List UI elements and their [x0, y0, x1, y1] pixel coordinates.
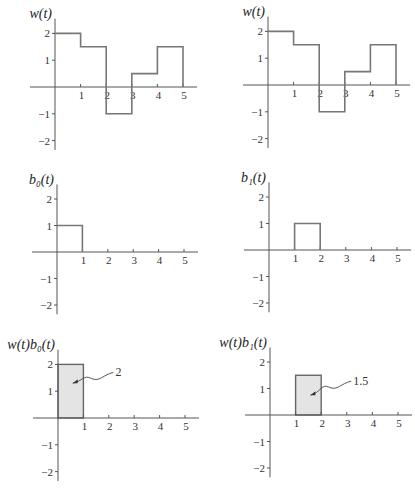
panel-b0: 12345−2−112b₀(t): [29, 172, 198, 315]
x-tick-label: 4: [369, 87, 375, 99]
x-tick-label: 4: [158, 420, 164, 432]
x-tick-label: 5: [394, 87, 400, 99]
signal-line: [55, 33, 183, 113]
x-tick-label: 5: [181, 89, 187, 101]
x-tick-label: 5: [183, 420, 189, 432]
x-tick-label: 2: [318, 252, 324, 264]
y-tick-label: 2: [48, 358, 54, 370]
x-tick-label: 2: [104, 89, 110, 101]
x-tick-label: 4: [371, 417, 377, 429]
y-tick-label: −2: [253, 462, 265, 474]
x-tick-label: 3: [130, 89, 136, 101]
figure: 12345−2−112w(t)12345−2−112w(t)12345−2−11…: [0, 0, 415, 488]
shaded-area: [296, 375, 322, 415]
signal-line: [57, 226, 82, 253]
panel-b1: 12345−2−112b₁(t): [241, 170, 411, 313]
x-tick-label: 5: [396, 417, 402, 429]
panel-title: b₁(t): [241, 170, 266, 186]
panel-wb1: 12345−2−112w(t)b₁(t)1.5: [219, 335, 412, 478]
x-tick-label: 2: [106, 254, 112, 266]
x-tick-label: 1: [79, 89, 85, 101]
y-tick-label: 1: [47, 220, 53, 232]
y-tick-label: −1: [38, 108, 50, 120]
y-tick-label: −1: [252, 271, 264, 283]
panel-title: w(t): [242, 4, 265, 20]
y-tick-label: −2: [40, 299, 52, 311]
x-tick-label: 3: [343, 87, 349, 99]
y-tick-label: 1: [260, 383, 266, 395]
y-tick-label: −1: [251, 106, 263, 118]
panel-w-copy: 12345−2−112w(t): [242, 4, 410, 148]
x-tick-label: 4: [157, 254, 163, 266]
y-tick-label: −2: [38, 135, 50, 147]
y-tick-label: −2: [251, 133, 263, 145]
x-tick-label: 4: [156, 89, 162, 101]
y-tick-label: 1: [45, 54, 51, 66]
signal-line: [295, 224, 321, 251]
x-tick-label: 3: [132, 420, 138, 432]
y-tick-label: 2: [259, 191, 265, 203]
x-tick-label: 5: [395, 252, 401, 264]
y-tick-label: 1: [258, 52, 264, 64]
y-tick-label: 1: [48, 385, 54, 397]
y-tick-label: 2: [45, 27, 51, 39]
x-tick-label: 1: [292, 87, 298, 99]
x-tick-label: 1: [81, 254, 87, 266]
x-tick-label: 2: [319, 417, 325, 429]
panel-title: w(t)b₁(t): [219, 335, 267, 351]
signal-line: [268, 31, 396, 111]
y-tick-label: −2: [252, 297, 264, 309]
panel-title: b₀(t): [29, 172, 54, 188]
panel-w: 12345−2−112w(t): [29, 6, 197, 150]
y-tick-label: 1: [259, 218, 265, 230]
x-tick-label: 4: [370, 252, 376, 264]
area-annotation: 2: [115, 365, 121, 379]
panel-title: w(t)b₀(t): [7, 337, 55, 353]
x-tick-label: 3: [131, 254, 137, 266]
x-tick-label: 2: [107, 420, 113, 432]
panel-wb0: 12345−2−112w(t)b₀(t)2: [7, 337, 199, 481]
x-tick-label: 1: [82, 420, 88, 432]
panel-title: w(t): [29, 6, 52, 22]
y-tick-label: 2: [258, 25, 264, 37]
y-tick-label: 2: [47, 193, 53, 205]
x-tick-label: 1: [293, 252, 299, 264]
y-tick-label: −1: [253, 436, 265, 448]
area-annotation: 1.5: [353, 374, 368, 388]
x-tick-label: 3: [345, 417, 351, 429]
y-tick-label: −1: [41, 439, 53, 451]
y-tick-label: −2: [41, 466, 53, 478]
x-tick-label: 5: [182, 254, 188, 266]
x-tick-label: 3: [344, 252, 350, 264]
x-tick-label: 2: [317, 87, 323, 99]
x-tick-label: 1: [294, 417, 300, 429]
y-tick-label: −1: [40, 273, 52, 285]
shaded-area: [58, 364, 83, 418]
y-tick-label: 2: [260, 356, 266, 368]
